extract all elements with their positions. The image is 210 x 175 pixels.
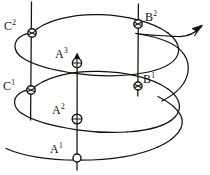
- label-c1: C1: [3, 80, 15, 92]
- direction-arrow-head: [192, 25, 203, 36]
- diagram-canvas: [0, 0, 210, 175]
- helix-diagram: C2 C1 A3 A2 A1 B2 B1: [0, 0, 210, 175]
- node-markers: [27, 20, 142, 162]
- label-b1: B1: [143, 73, 155, 85]
- node-a2-marker: [72, 114, 82, 124]
- node-a1-marker: [73, 154, 81, 162]
- arrow-shaft: [136, 27, 202, 37]
- node-c2-marker: [28, 29, 36, 37]
- helix-bottom-arc: [6, 147, 158, 160]
- vertical-lines: [31, 2, 139, 170]
- label-c2: C2: [4, 20, 16, 32]
- label-a1: A1: [50, 143, 63, 155]
- label-a3: A3: [55, 48, 68, 60]
- node-b1-marker: [134, 82, 142, 90]
- label-b2: B2: [145, 11, 157, 23]
- helix-top-right-turn: [133, 33, 179, 75]
- node-b2-marker: [134, 20, 142, 28]
- node-c1-marker: [27, 86, 35, 94]
- label-a2: A2: [52, 104, 65, 116]
- axis-left-line: [31, 2, 32, 120]
- node-a3-marker: [72, 58, 81, 67]
